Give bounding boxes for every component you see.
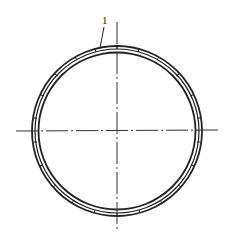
part-label-1: 1: [102, 14, 108, 26]
horizontal-center-line: [16, 130, 218, 131]
leader-line: [100, 27, 104, 48]
ring-drawing: [0, 0, 232, 240]
